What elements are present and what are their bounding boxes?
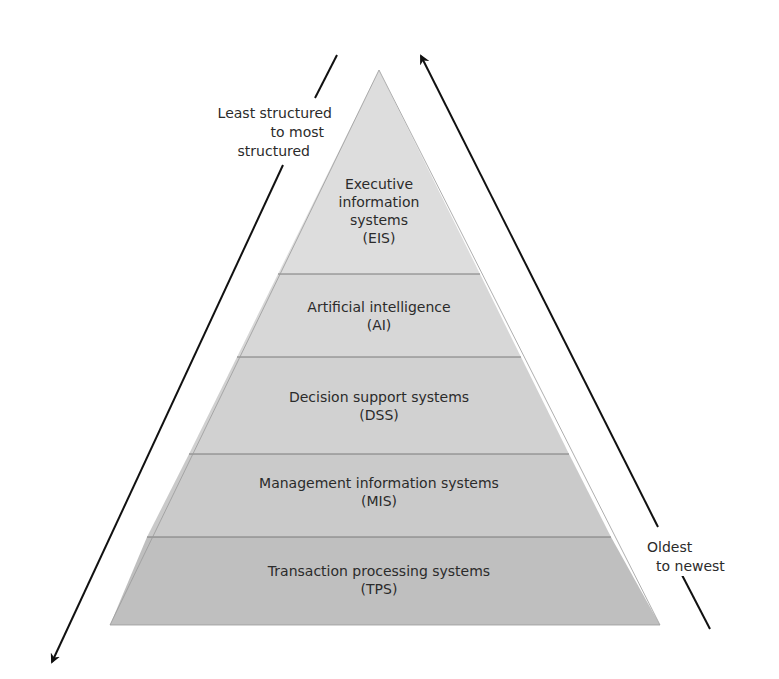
mis-abbr: (MIS): [229, 492, 529, 510]
left-arrow-label: Least structured to most structured: [212, 104, 332, 161]
dss-abbr: (DSS): [259, 406, 499, 424]
eis-abbr: (EIS): [319, 229, 439, 247]
right-label-line1: Oldest: [647, 538, 737, 557]
layer-ai-label: Artificial intelligence (AI): [279, 298, 479, 334]
eis-line3: systems: [319, 211, 439, 229]
mis-line1: Management information systems: [229, 474, 529, 492]
eis-line2: information: [319, 193, 439, 211]
ai-line1: Artificial intelligence: [279, 298, 479, 316]
layer-eis-label: Executive information systems (EIS): [319, 175, 439, 247]
left-label-line1: Least structured: [212, 104, 332, 123]
layer-mis-label: Management information systems (MIS): [229, 474, 529, 510]
layer-tps-label: Transaction processing systems (TPS): [229, 562, 529, 598]
right-label-line2: to newest: [647, 557, 737, 576]
tps-line1: Transaction processing systems: [229, 562, 529, 580]
right-arrow-label: Oldest to newest: [647, 538, 737, 576]
tps-abbr: (TPS): [229, 580, 529, 598]
dss-line1: Decision support systems: [259, 388, 499, 406]
left-label-line2: to most: [212, 123, 332, 142]
left-label-line3: structured: [212, 142, 332, 161]
ai-abbr: (AI): [279, 316, 479, 334]
eis-line1: Executive: [319, 175, 439, 193]
layer-dss-label: Decision support systems (DSS): [259, 388, 499, 424]
